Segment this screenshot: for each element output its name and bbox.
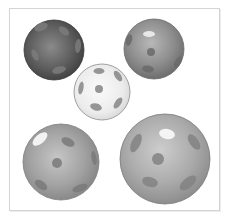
white-ball-center (74, 64, 130, 120)
grey-ball-top-right (124, 19, 184, 79)
balls-scene (0, 0, 228, 219)
ball-highlight (143, 31, 155, 37)
dark-ball-top-left (24, 20, 84, 80)
grey-ball-bottom-right (120, 114, 210, 204)
grey-ball-bottom-left (23, 124, 99, 200)
